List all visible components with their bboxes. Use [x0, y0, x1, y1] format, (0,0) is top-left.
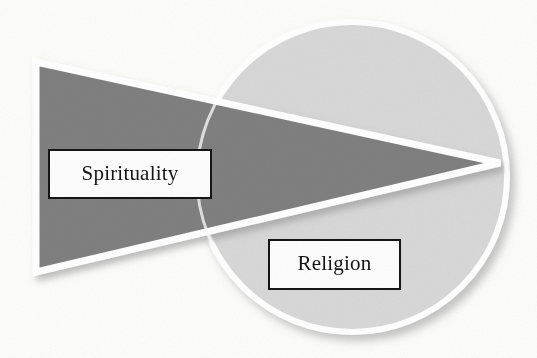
- label-text-religion: Religion: [298, 253, 372, 274]
- figure-canvas: Spirituality Religion: [0, 0, 537, 358]
- label-box-spirituality: Spirituality: [48, 149, 212, 199]
- label-text-spirituality: Spirituality: [82, 163, 179, 184]
- label-box-religion: Religion: [268, 239, 401, 290]
